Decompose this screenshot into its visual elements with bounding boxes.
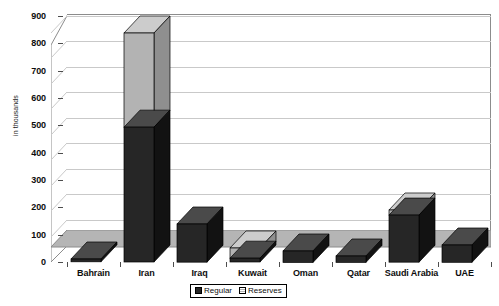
- x-axis-tick-label: Iran: [138, 268, 154, 278]
- legend-item-reserves: Reserves: [239, 286, 282, 295]
- x-axis-tick-label: Iraq: [191, 268, 207, 278]
- x-axis-tick-label: Qatar: [347, 268, 370, 278]
- x-axis-tick-label: Oman: [293, 268, 318, 278]
- x-axis-tick: [279, 262, 280, 267]
- x-axis-tick: [120, 262, 121, 267]
- legend-label-reserves: Reserves: [248, 286, 282, 295]
- bar-series-group: [0, 0, 499, 306]
- x-axis-tick-label: UAE: [455, 268, 474, 278]
- bar-column: [69, 240, 119, 264]
- legend-swatch-reserves-icon: [239, 287, 246, 294]
- legend-swatch-regular-icon: [195, 287, 202, 294]
- x-axis-tick-label: Saudi Arabia: [385, 268, 438, 278]
- bar-column: [440, 226, 490, 264]
- x-axis-tick: [67, 262, 68, 267]
- x-axis-tick: [173, 262, 174, 267]
- legend-label-regular: Regular: [204, 286, 232, 295]
- bar-column: [175, 205, 225, 264]
- x-axis-tick: [332, 262, 333, 267]
- x-axis-tick-label: Bahrain: [77, 268, 110, 278]
- legend-item-regular: Regular: [195, 286, 232, 295]
- bar-column: [228, 229, 278, 264]
- bar-column: [281, 232, 331, 264]
- bar-column: [122, 14, 172, 264]
- bar-column: [334, 237, 384, 264]
- x-axis-tick: [491, 262, 492, 267]
- x-axis-tick: [226, 262, 227, 267]
- x-axis-tick-label: Kuwait: [238, 268, 267, 278]
- bar-column: [387, 191, 437, 264]
- bar-chart: in thousands 010020030040050060070080090…: [0, 0, 499, 306]
- chart-legend: Regular Reserves: [190, 284, 287, 298]
- x-axis-tick: [385, 262, 386, 267]
- x-axis-tick: [438, 262, 439, 267]
